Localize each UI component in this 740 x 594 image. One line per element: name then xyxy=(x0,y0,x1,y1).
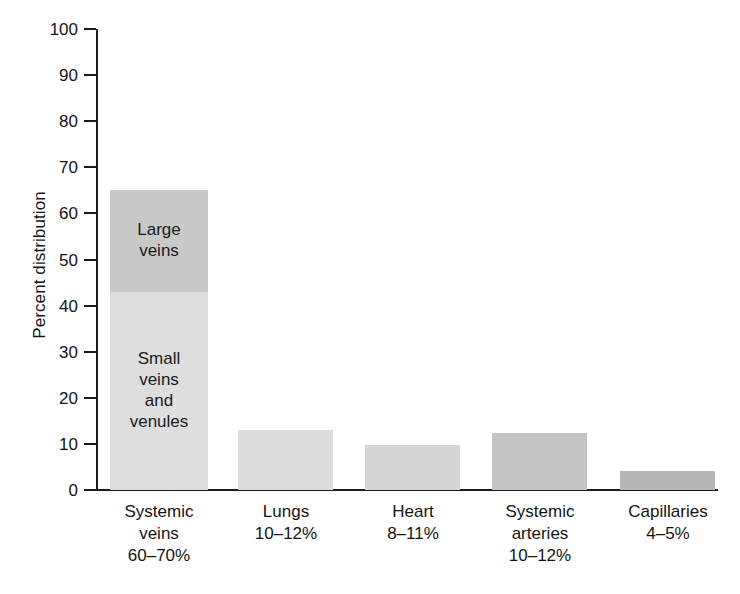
y-axis-tick xyxy=(84,443,96,445)
y-axis-tick-label: 70 xyxy=(0,159,78,176)
y-axis-tick-label: 100 xyxy=(0,21,78,38)
bar-segment xyxy=(365,445,460,490)
bar-segment: Large veins xyxy=(110,190,208,291)
bar-segment-label: Large veins xyxy=(110,220,208,261)
bar-segment xyxy=(238,430,333,490)
y-axis-tick-label: 90 xyxy=(0,67,78,84)
bar-segment-label: Small veins and venules xyxy=(110,349,208,432)
bar xyxy=(620,471,715,490)
x-axis-category-label: Heart 8–11% xyxy=(343,501,483,545)
y-axis-tick-label: 80 xyxy=(0,113,78,130)
y-axis-tick xyxy=(84,305,96,307)
bar-chart: Percent distribution 1009080706050403020… xyxy=(0,0,740,594)
y-axis-tick-label: 40 xyxy=(0,298,78,315)
bar xyxy=(238,430,333,490)
y-axis-tick xyxy=(84,212,96,214)
y-axis-tick-label: 30 xyxy=(0,344,78,361)
x-axis-category-label: Capillaries 4–5% xyxy=(598,501,738,545)
y-axis-tick xyxy=(84,351,96,353)
y-axis-tick xyxy=(84,120,96,122)
y-axis-tick xyxy=(84,74,96,76)
y-axis-tick xyxy=(84,259,96,261)
y-axis-tick-label: 20 xyxy=(0,390,78,407)
y-axis-tick-label: 0 xyxy=(0,482,78,499)
bar: Large veinsSmall veins and venules xyxy=(110,190,208,490)
y-axis-tick xyxy=(84,397,96,399)
y-axis-tick-label: 60 xyxy=(0,205,78,222)
x-axis-category-label: Lungs 10–12% xyxy=(216,501,356,545)
bar-segment xyxy=(492,433,587,490)
bar xyxy=(492,433,587,490)
y-axis-tick xyxy=(84,166,96,168)
y-axis-tick xyxy=(84,28,96,30)
bar-segment xyxy=(620,471,715,490)
y-axis-tick-label: 10 xyxy=(0,436,78,453)
bar-segment: Small veins and venules xyxy=(110,292,208,490)
y-axis-tick xyxy=(84,489,96,491)
x-axis-category-label: Systemic arteries 10–12% xyxy=(470,501,610,567)
y-axis-tick-label: 50 xyxy=(0,252,78,269)
bar xyxy=(365,445,460,490)
y-axis-line xyxy=(96,29,98,491)
x-axis-category-label: Systemic veins 60–70% xyxy=(88,501,230,567)
